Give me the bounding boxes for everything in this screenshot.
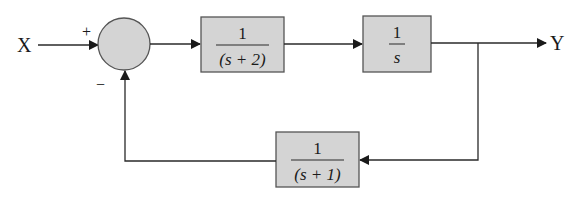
h-numerator: 1: [313, 139, 322, 158]
output-label-y: Y: [550, 32, 564, 54]
plus-sign: +: [82, 23, 91, 40]
g2-denominator: s: [394, 48, 401, 67]
input-label-x: X: [17, 34, 32, 56]
g1-numerator: 1: [238, 24, 247, 43]
g1-denominator: (s + 2): [219, 50, 266, 69]
block-diagram: X + − 1 (s + 2) 1 s Y 1 (s + 1): [0, 0, 577, 203]
block-h: 1 (s + 1): [276, 132, 359, 187]
block-g1: 1 (s + 2): [201, 17, 284, 72]
block-g2: 1 s: [363, 16, 431, 72]
feedback-return: [125, 71, 276, 161]
minus-sign: −: [96, 76, 105, 93]
summing-junction: [98, 18, 150, 70]
h-denominator: (s + 1): [294, 165, 341, 184]
g2-numerator: 1: [393, 23, 402, 42]
